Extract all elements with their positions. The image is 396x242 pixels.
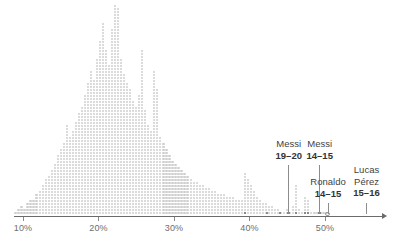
- data-dot: [186, 212, 188, 214]
- data-dot: [78, 158, 80, 160]
- data-dot: [165, 152, 167, 154]
- data-dot: [72, 140, 74, 142]
- data-dot: [99, 92, 101, 94]
- data-dot: [153, 161, 155, 163]
- data-dot: [105, 89, 107, 91]
- data-dot: [84, 155, 86, 157]
- data-dot: [135, 185, 137, 187]
- data-dot: [66, 173, 68, 175]
- data-dot: [96, 119, 98, 121]
- data-dot: [132, 104, 134, 106]
- data-dot: [162, 209, 164, 211]
- data-dot: [117, 206, 119, 208]
- data-dot: [132, 179, 134, 181]
- data-dot: [205, 188, 207, 190]
- data-dot: [111, 146, 113, 148]
- data-dot: [147, 188, 149, 190]
- data-dot: [183, 203, 185, 205]
- data-dot: [153, 176, 155, 178]
- data-dot: [84, 146, 86, 148]
- data-dot: [162, 173, 164, 175]
- data-dot: [177, 200, 179, 202]
- data-dot: [186, 176, 188, 178]
- data-dot: [162, 176, 164, 178]
- data-dot: [177, 203, 179, 205]
- data-dot: [117, 188, 119, 190]
- data-dot: [177, 185, 179, 187]
- data-dot: [84, 131, 86, 133]
- data-dot: [123, 113, 125, 115]
- data-dot: [295, 200, 297, 202]
- data-dot: [102, 164, 104, 166]
- data-dot: [150, 155, 152, 157]
- data-dot: [87, 98, 89, 100]
- data-dot: [93, 212, 95, 214]
- data-dot: [135, 194, 137, 196]
- data-dot: [105, 92, 107, 94]
- data-dot: [90, 131, 92, 133]
- data-dot: [90, 110, 92, 112]
- data-dot: [159, 173, 161, 175]
- data-dot: [120, 116, 122, 118]
- data-dot: [90, 197, 92, 199]
- data-dot: [156, 113, 158, 115]
- data-dot: [114, 176, 116, 178]
- data-dot: [87, 134, 89, 136]
- data-dot: [114, 59, 116, 61]
- data-dot: [84, 128, 86, 130]
- data-dot: [196, 206, 198, 208]
- data-dot: [129, 176, 131, 178]
- data-dot: [99, 200, 101, 202]
- data-dot: [156, 101, 158, 103]
- data-dot: [135, 164, 137, 166]
- data-dot: [105, 176, 107, 178]
- data-dot: [123, 188, 125, 190]
- data-dot: [105, 212, 107, 214]
- data-dot: [147, 179, 149, 181]
- data-dot: [117, 59, 119, 61]
- data-dot: [90, 77, 92, 79]
- data-dot: [150, 158, 152, 160]
- data-dot: [120, 167, 122, 169]
- data-dot: [14, 212, 16, 214]
- data-dot: [66, 125, 68, 127]
- data-dot: [99, 209, 101, 211]
- data-dot: [93, 122, 95, 124]
- data-dot: [120, 173, 122, 175]
- data-dot: [165, 200, 167, 202]
- data-dot: [120, 206, 122, 208]
- data-dot: [180, 212, 182, 214]
- data-dot: [117, 170, 119, 172]
- data-dot: [162, 191, 164, 193]
- x-axis-tick-label: 30%: [165, 223, 183, 233]
- data-dot: [72, 137, 74, 139]
- data-dot: [78, 176, 80, 178]
- data-dot: [153, 185, 155, 187]
- data-dot: [123, 143, 125, 145]
- data-dot: [183, 206, 185, 208]
- data-dot: [196, 209, 198, 211]
- data-dot: [105, 206, 107, 208]
- data-dot: [102, 116, 104, 118]
- data-dot: [171, 212, 173, 214]
- data-dot: [96, 197, 98, 199]
- x-axis-tick: [23, 217, 24, 221]
- data-dot: [232, 212, 234, 214]
- data-dot: [253, 197, 255, 199]
- data-dot: [75, 146, 77, 148]
- data-dot: [156, 128, 158, 130]
- data-dot: [144, 128, 146, 130]
- data-dot: [75, 152, 77, 154]
- data-dot: [84, 149, 86, 151]
- data-dot: [54, 176, 56, 178]
- data-dot: [247, 203, 249, 205]
- data-dot: [138, 176, 140, 178]
- data-dot: [117, 161, 119, 163]
- data-dot: [108, 161, 110, 163]
- data-dot: [48, 191, 50, 193]
- data-dot: [126, 191, 128, 193]
- data-dot: [156, 194, 158, 196]
- data-dot: [156, 164, 158, 166]
- data-dot: [102, 44, 104, 46]
- data-dot: [141, 86, 143, 88]
